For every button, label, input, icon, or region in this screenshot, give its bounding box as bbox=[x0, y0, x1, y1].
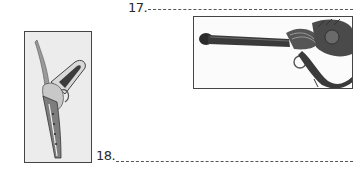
question-number-17: 17. bbox=[128, 1, 147, 14]
image-curved-pistol bbox=[24, 31, 92, 163]
image-long-rifle bbox=[193, 16, 353, 89]
long-rifle-illustration bbox=[194, 17, 353, 89]
answer-blank-17[interactable] bbox=[148, 9, 353, 10]
curved-pistol-illustration bbox=[25, 32, 92, 163]
answer-blank-18[interactable] bbox=[116, 161, 353, 162]
question-number-18: 18. bbox=[96, 149, 115, 162]
